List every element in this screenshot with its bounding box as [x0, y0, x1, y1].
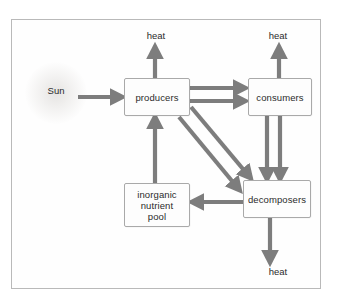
node-decomposers-label: decomposers — [248, 194, 306, 205]
heat-label-producers: heat — [136, 30, 176, 41]
heat-label-decomposers: heat — [258, 266, 298, 277]
node-producers-label: producers — [135, 92, 178, 103]
sun-label: Sun — [38, 85, 74, 96]
node-consumers-label: consumers — [256, 92, 303, 103]
diagram-canvas: producers consumers decomposers inorgani… — [0, 0, 337, 305]
heat-label-consumers: heat — [258, 30, 298, 41]
node-consumers[interactable]: consumers — [248, 78, 312, 116]
node-inorganic-nutrient-pool[interactable]: inorganic nutrient pool — [124, 183, 190, 227]
arrow-layer — [0, 0, 337, 305]
node-inorganic-nutrient-pool-label: inorganic nutrient pool — [137, 189, 176, 222]
node-producers[interactable]: producers — [124, 78, 190, 116]
node-decomposers[interactable]: decomposers — [243, 180, 311, 218]
